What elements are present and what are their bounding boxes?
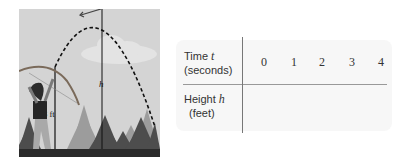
time-value: 3: [346, 55, 358, 70]
time-value: 0: [258, 55, 270, 70]
time-row: Time t (seconds) 0 1 2 3 4: [176, 40, 392, 84]
time-variable: t: [211, 49, 214, 63]
height-row: Height h (feet): [176, 85, 392, 131]
time-value: 2: [316, 55, 328, 70]
height-header: Height h (feet): [184, 92, 242, 120]
height-label: Height: [184, 93, 216, 105]
height-variable: h: [219, 92, 225, 106]
time-height-table: Time t (seconds) 0 1 2 3 4 Height h (fee…: [176, 40, 392, 131]
time-unit: (seconds): [184, 63, 242, 77]
height-unit: (feet): [184, 106, 242, 120]
time-value: 4: [375, 55, 387, 70]
archer-illustration: h 8 ft: [19, 9, 160, 157]
time-label: Time: [184, 50, 208, 62]
time-header: Time t (seconds): [184, 49, 242, 77]
max-height-label: h: [99, 79, 104, 89]
time-value: 1: [288, 55, 300, 70]
ground: [19, 149, 160, 157]
